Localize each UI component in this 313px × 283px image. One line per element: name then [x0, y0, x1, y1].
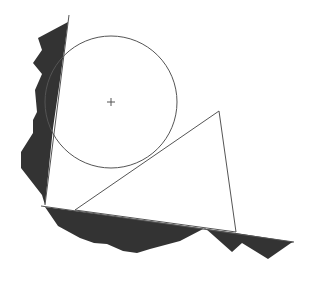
diagram-canvas: [0, 0, 313, 283]
